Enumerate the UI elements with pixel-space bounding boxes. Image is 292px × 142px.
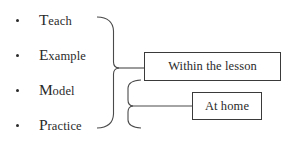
outcome-box-at-home: At home: [192, 92, 262, 120]
inner-bracket-icon: [128, 80, 141, 128]
outcome-box-label: At home: [205, 99, 249, 114]
outcome-box-within-the-lesson: Within the lesson: [144, 52, 281, 81]
outcome-box-label: Within the lesson: [168, 59, 257, 74]
diagram-canvas: Teach Example Model Practice Within the …: [0, 0, 292, 142]
outer-bracket-icon: [97, 17, 119, 128]
